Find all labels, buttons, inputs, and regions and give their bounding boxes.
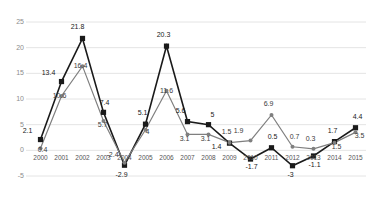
series-line-2: [41, 66, 356, 163]
gridlines: [26, 22, 366, 176]
data-point-label: -2.4: [103, 151, 123, 159]
data-point-marker: [143, 122, 148, 127]
y-tick-label: 0: [0, 146, 24, 154]
data-point-label: 16.4: [71, 62, 91, 70]
data-point-label: 5.6: [171, 107, 191, 115]
data-point-marker: [270, 113, 274, 117]
data-point-marker: [269, 145, 274, 150]
data-point-label: 6.9: [259, 100, 279, 108]
y-tick-label: 10: [0, 95, 24, 103]
series-lines: [41, 38, 356, 165]
series-line-1: [41, 38, 356, 165]
data-point-label: 1.4: [207, 143, 227, 151]
data-point-label: 0.3: [301, 135, 321, 143]
data-point-label: 5.1: [133, 109, 153, 117]
data-point-marker: [312, 147, 316, 151]
x-tick-label: 2015: [343, 154, 369, 162]
data-point-label: -2.9: [112, 171, 132, 179]
data-point-label: 4.4: [348, 113, 368, 121]
data-point-label: -1.7: [242, 163, 262, 171]
data-point-label: 21.8: [68, 23, 88, 31]
data-point-label: 5.7: [93, 121, 113, 129]
y-tick-label: 25: [0, 18, 24, 26]
data-point-label: 1.7: [323, 127, 343, 135]
data-point-label: 3.1: [196, 135, 216, 143]
data-point-marker: [228, 141, 232, 145]
data-point-label: 0.5: [263, 133, 283, 141]
data-point-label: 1.9: [229, 127, 249, 135]
data-point-label: 5: [203, 111, 223, 119]
data-point-label: 13.4: [39, 69, 59, 77]
data-point-label: 20.3: [154, 31, 174, 39]
y-tick-label: -5: [0, 172, 24, 180]
data-point-label: 3.1: [175, 135, 195, 143]
data-point-marker: [80, 36, 85, 41]
data-point-marker: [290, 163, 295, 168]
data-point-label: 0.4: [33, 146, 53, 154]
data-point-marker: [164, 44, 169, 49]
data-point-marker: [249, 139, 253, 143]
y-tick-label: 15: [0, 69, 24, 77]
data-point-label: 4: [138, 128, 158, 136]
data-point-label: -1.1: [305, 161, 325, 169]
data-point-label: 2.1: [18, 127, 38, 135]
data-point-marker: [59, 79, 64, 84]
data-point-marker: [38, 137, 43, 142]
data-point-label: 3.5: [350, 132, 369, 140]
data-point-marker: [353, 125, 358, 130]
data-point-label: 1.5: [327, 143, 347, 151]
data-point-label: 11.6: [157, 87, 177, 95]
data-point-label: -3: [281, 171, 301, 179]
y-tick-label: 20: [0, 44, 24, 52]
data-point-label: 10.6: [50, 92, 70, 100]
data-point-marker: [101, 110, 106, 115]
data-point-label: 7.4: [95, 99, 115, 107]
data-point-marker: [206, 122, 211, 127]
data-point-marker: [185, 119, 190, 124]
data-point-marker: [291, 145, 295, 149]
line-chart: -50510152025 200020012002200320042005200…: [0, 0, 369, 208]
chart-plot-area: [0, 0, 369, 208]
